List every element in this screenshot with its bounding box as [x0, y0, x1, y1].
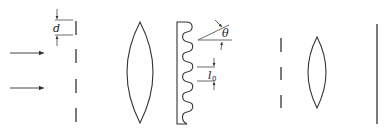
- incident-arrows: [10, 53, 44, 88]
- optics-diagram: d θ l0: [0, 0, 389, 134]
- converging-lens-2: [308, 37, 326, 108]
- slit-spacing-label: d: [53, 22, 60, 35]
- groove-period-label: l0: [208, 69, 217, 83]
- groove-period-dimension: [197, 58, 215, 90]
- reflection-grating: [177, 22, 193, 124]
- blaze-angle-label: θ: [222, 27, 229, 40]
- converging-lens-1: [127, 22, 153, 123]
